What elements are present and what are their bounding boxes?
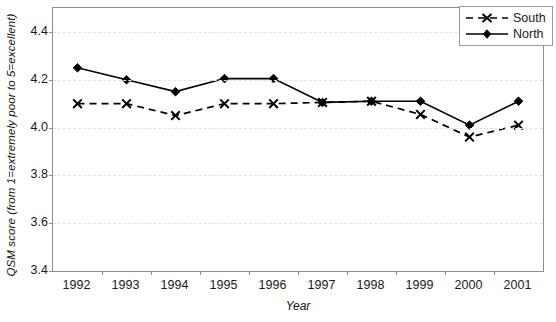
- plot-area: [52, 7, 544, 272]
- data-point-north: [171, 87, 180, 96]
- x-tick-label: 1998: [357, 278, 385, 292]
- legend-sample-north-icon: [465, 27, 509, 41]
- legend-item-south[interactable]: South: [465, 10, 546, 26]
- y-tick-label: 3.8: [20, 167, 48, 181]
- chart-legend: South North: [459, 6, 553, 46]
- legend-label-south: South: [509, 11, 546, 25]
- y-axis-title: QSM score (from 1=extremely poor to 5=ex…: [5, 13, 17, 276]
- y-tick-label: 3.4: [20, 263, 48, 277]
- x-tick-mark: [298, 271, 299, 275]
- y-tick-mark: [49, 128, 53, 129]
- x-tick-label: 2000: [455, 278, 483, 292]
- x-tick-mark: [102, 271, 103, 275]
- series-layer: [53, 8, 543, 271]
- data-point-north: [73, 63, 82, 72]
- y-tick-mark: [49, 32, 53, 33]
- y-tick-label: 4.2: [20, 72, 48, 86]
- data-point-north: [514, 97, 523, 106]
- x-tick-mark: [347, 271, 348, 275]
- x-tick-label: 1994: [161, 278, 189, 292]
- gridline: [53, 128, 543, 129]
- x-tick-label: 1997: [308, 278, 336, 292]
- x-tick-mark: [396, 271, 397, 275]
- series-line-south: [78, 101, 519, 137]
- data-point-south: [416, 110, 425, 119]
- data-point-south: [465, 133, 474, 142]
- x-tick-mark: [200, 271, 201, 275]
- legend-swatch-north: [465, 27, 509, 41]
- x-tick-label: 1993: [112, 278, 140, 292]
- chart-figure: QSM score (from 1=extremely poor to 5=ex…: [0, 0, 556, 322]
- x-axis-tick-labels: 1992199319941995199619971998199920002001: [52, 278, 544, 296]
- x-tick-label: 1995: [210, 278, 238, 292]
- x-tick-mark: [445, 271, 446, 275]
- data-point-north: [416, 97, 425, 106]
- legend-swatch-south: [465, 11, 509, 25]
- series-line-north: [78, 68, 519, 125]
- gridline: [53, 223, 543, 224]
- x-tick-label: 1996: [259, 278, 287, 292]
- x-tick-mark: [494, 271, 495, 275]
- gridline: [53, 80, 543, 81]
- x-tick-mark: [151, 271, 152, 275]
- y-axis-tick-labels: 3.43.63.84.04.24.4: [18, 0, 48, 322]
- legend-sample-south-icon: [465, 11, 509, 25]
- y-tick-mark: [49, 223, 53, 224]
- x-tick-label: 1999: [406, 278, 434, 292]
- legend-label-north: North: [509, 27, 544, 41]
- data-point-north: [220, 74, 229, 83]
- y-tick-mark: [49, 175, 53, 176]
- x-tick-mark: [249, 271, 250, 275]
- y-tick-label: 4.4: [20, 24, 48, 38]
- y-tick-label: 3.6: [20, 215, 48, 229]
- y-tick-mark: [49, 271, 53, 272]
- data-point-north: [269, 74, 278, 83]
- legend-item-north[interactable]: North: [465, 26, 546, 42]
- x-axis-title: Year: [52, 299, 544, 313]
- y-tick-label: 4.0: [20, 120, 48, 134]
- x-tick-label: 1992: [63, 278, 91, 292]
- y-tick-mark: [49, 80, 53, 81]
- gridline: [53, 175, 543, 176]
- x-tick-label: 2001: [504, 278, 532, 292]
